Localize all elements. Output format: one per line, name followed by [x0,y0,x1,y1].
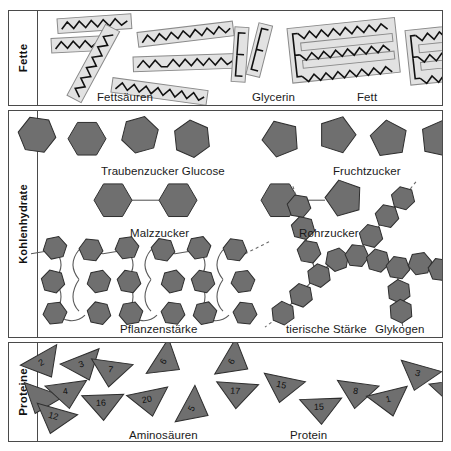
caption-tierische-staerke: tierische Stärke [286,323,367,335]
section-proteine: Proteine 2 3 [8,342,443,442]
caption-glucose: Traubenzucker Glucose [101,165,225,177]
section-fette: Fette [8,10,443,106]
biomolecules-figure: Fette [0,0,451,451]
canvas-kohlenhydrate [37,111,442,337]
caption-pflanzenstaerke: Pflanzenstärke [120,323,197,335]
svg-text:15: 15 [275,379,287,391]
category-label-fette-text: Fette [17,44,29,72]
category-label-kohlenhydrate-text: Kohlenhydrate [17,184,29,264]
caption-glykogen: Glykogen [375,323,424,335]
section-kohlenhydrate: Kohlenhydrate [8,110,443,338]
category-label-fette: Fette [9,11,37,105]
caption-fett: Fett [357,91,377,103]
svg-text:20: 20 [141,393,153,405]
canvas-proteine: 2 3 4 7 12 [37,343,442,441]
caption-rohrzucker: Rohrzucker [299,227,359,239]
caption-fruchtzucker: Fruchtzucker [333,165,401,177]
svg-text:16: 16 [96,398,106,408]
svg-text:15: 15 [314,402,324,412]
caption-malzzucker: Malzzucker [130,227,189,239]
svg-text:17: 17 [230,386,241,397]
caption-glycerin: Glycerin [252,91,295,103]
caption-aminosaeuren: Aminosäuren [129,429,198,441]
caption-protein: Protein [290,429,327,441]
caption-fettsaeuren: Fettsäuren [97,91,153,103]
